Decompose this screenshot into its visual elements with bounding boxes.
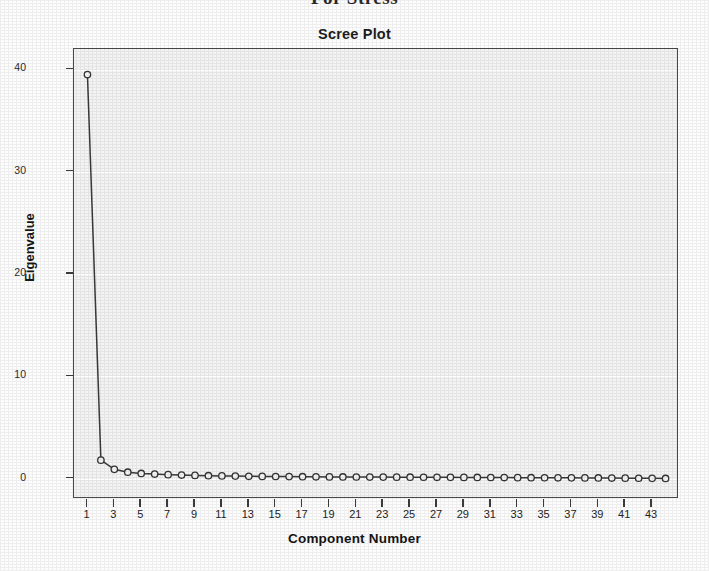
x-tick-label: 43 <box>636 508 666 520</box>
data-point-marker <box>501 474 507 480</box>
data-point-marker <box>649 475 655 481</box>
data-point-marker <box>98 457 104 463</box>
data-point-marker <box>219 473 225 479</box>
data-point-marker <box>178 472 184 478</box>
x-tick-mark <box>462 499 464 507</box>
x-axis-title: Component Number <box>0 531 709 546</box>
x-tick-label: 5 <box>125 508 155 520</box>
y-tick-label: 40 <box>0 61 26 73</box>
x-tick-label: 35 <box>529 508 559 520</box>
x-tick-label: 11 <box>206 508 236 520</box>
data-point-marker <box>259 473 265 479</box>
x-tick-label: 9 <box>179 508 209 520</box>
data-point-marker <box>407 474 413 480</box>
x-tick-mark <box>166 499 168 507</box>
data-point-marker <box>380 474 386 480</box>
data-point-marker <box>662 475 668 481</box>
x-tick-mark <box>435 499 437 507</box>
x-tick-label: 19 <box>313 508 343 520</box>
x-tick-label: 33 <box>502 508 532 520</box>
x-tick-mark <box>328 499 330 507</box>
x-tick-mark <box>543 499 545 507</box>
data-point-marker <box>528 474 534 480</box>
x-tick-mark <box>301 499 303 507</box>
data-point-marker <box>609 475 615 481</box>
x-tick-label: 27 <box>421 508 451 520</box>
x-tick-label: 21 <box>340 508 370 520</box>
data-point-marker <box>582 475 588 481</box>
x-tick-label: 3 <box>98 508 128 520</box>
x-tick-mark <box>489 499 491 507</box>
chart-title: Scree Plot <box>0 26 709 42</box>
x-tick-mark <box>597 499 599 507</box>
data-point-marker <box>514 474 520 480</box>
y-tick-mark <box>66 68 73 70</box>
x-tick-mark <box>408 499 410 507</box>
data-point-marker <box>138 470 144 476</box>
document-header-text: For Stress <box>0 0 709 9</box>
data-point-marker <box>272 473 278 479</box>
data-point-marker <box>205 472 211 478</box>
x-tick-mark <box>86 499 88 507</box>
x-tick-label: 25 <box>394 508 424 520</box>
x-tick-mark <box>355 499 357 507</box>
data-point-marker <box>488 474 494 480</box>
y-tick-mark <box>66 375 73 377</box>
y-tick-label: 30 <box>0 164 26 176</box>
series-line <box>87 75 665 479</box>
y-tick-mark <box>66 272 73 274</box>
y-tick-label: 20 <box>0 266 26 278</box>
x-tick-label: 39 <box>582 508 612 520</box>
data-point-marker <box>541 475 547 481</box>
data-point-marker <box>192 472 198 478</box>
data-point-marker <box>635 475 641 481</box>
data-point-marker <box>393 474 399 480</box>
x-tick-mark <box>516 499 518 507</box>
data-point-marker <box>340 474 346 480</box>
data-point-marker <box>232 473 238 479</box>
data-point-marker <box>555 475 561 481</box>
x-tick-mark <box>274 499 276 507</box>
data-point-marker <box>622 475 628 481</box>
plot-frame <box>73 48 678 498</box>
data-point-marker <box>595 475 601 481</box>
data-point-marker <box>367 474 373 480</box>
data-point-marker <box>151 471 157 477</box>
data-point-marker <box>420 474 426 480</box>
data-point-marker <box>246 473 252 479</box>
x-tick-mark <box>139 499 141 507</box>
page-canvas: For Stress Scree Plot Eigenvalue 0102030… <box>0 0 709 571</box>
x-tick-label: 13 <box>233 508 263 520</box>
y-tick-label: 0 <box>0 471 26 483</box>
x-tick-mark <box>570 499 572 507</box>
x-tick-mark <box>650 499 652 507</box>
x-tick-label: 17 <box>287 508 317 520</box>
y-tick-mark <box>66 477 73 479</box>
x-tick-mark <box>193 499 195 507</box>
data-point-marker <box>286 473 292 479</box>
x-tick-label: 23 <box>367 508 397 520</box>
x-tick-label: 7 <box>152 508 182 520</box>
x-tick-mark <box>247 499 249 507</box>
y-tick-mark <box>66 170 73 172</box>
x-tick-label: 15 <box>260 508 290 520</box>
data-point-marker <box>447 474 453 480</box>
data-point-marker <box>165 471 171 477</box>
x-tick-mark <box>623 499 625 507</box>
scree-line-series <box>74 49 678 498</box>
data-point-marker <box>353 474 359 480</box>
data-point-marker <box>326 474 332 480</box>
data-point-marker <box>434 474 440 480</box>
data-point-marker <box>313 474 319 480</box>
x-tick-mark <box>220 499 222 507</box>
data-point-marker <box>568 475 574 481</box>
x-tick-mark <box>113 499 115 507</box>
x-tick-label: 41 <box>609 508 639 520</box>
data-point-marker <box>84 71 90 77</box>
data-point-marker <box>299 474 305 480</box>
y-tick-label: 10 <box>0 368 26 380</box>
series-markers <box>84 71 669 481</box>
data-point-marker <box>474 474 480 480</box>
data-point-marker <box>111 466 117 472</box>
y-axis-title: Eigenvalue <box>22 188 37 308</box>
